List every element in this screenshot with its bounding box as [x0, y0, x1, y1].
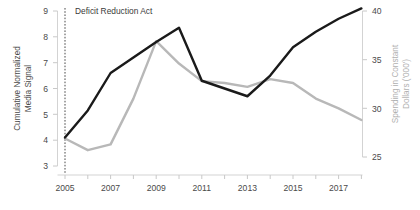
x-tick-label-2015: 2015	[283, 183, 302, 193]
x-tick-label-2009: 2009	[147, 183, 166, 193]
series-layer	[65, 8, 361, 150]
left-axis-title-line2: Media Signal	[24, 65, 33, 113]
right-axis-title-line2: Dollars ('000')	[402, 59, 411, 109]
left-tick-label-8: 8	[43, 32, 48, 42]
right-tick-label-35: 35	[372, 55, 382, 65]
right-axis: 40 35 30 25 Spending in Constant Dollars…	[363, 6, 412, 162]
left-tick-label-6: 6	[43, 84, 48, 94]
left-axis: 9 8 7 6 5 4 3 Cumulative Normalized Medi…	[13, 6, 58, 171]
deficit-reduction-act-annotation: Deficit Reduction Act	[65, 6, 153, 174]
right-tick-label-25: 25	[372, 152, 382, 162]
right-tick-label-40: 40	[372, 6, 382, 16]
right-axis-title-line1: Spending in Constant	[391, 44, 400, 123]
x-tick-label-2017: 2017	[329, 183, 348, 193]
chart-svg: 9 8 7 6 5 4 3 Cumulative Normalized Medi…	[0, 0, 420, 210]
left-tick-label-7: 7	[43, 58, 48, 68]
x-axis: 2005 2007 2009 2011 2013 2015 2017	[55, 175, 362, 193]
x-tick-label-2005: 2005	[55, 183, 74, 193]
left-tick-label-9: 9	[43, 6, 48, 16]
left-tick-label-4: 4	[43, 135, 48, 145]
x-tick-label-2007: 2007	[101, 183, 120, 193]
right-tick-label-30: 30	[372, 104, 382, 114]
series-media-signal-line	[65, 8, 361, 137]
x-tick-label-2011: 2011	[193, 183, 212, 193]
annotation-label: Deficit Reduction Act	[75, 6, 153, 16]
dual-axis-line-chart: 9 8 7 6 5 4 3 Cumulative Normalized Medi…	[0, 0, 420, 210]
left-tick-label-3: 3	[43, 161, 48, 171]
series-spending-line	[65, 41, 361, 150]
left-axis-title-line1: Cumulative Normalized	[13, 46, 22, 131]
x-tick-label-2013: 2013	[238, 183, 257, 193]
left-tick-label-5: 5	[43, 110, 48, 120]
